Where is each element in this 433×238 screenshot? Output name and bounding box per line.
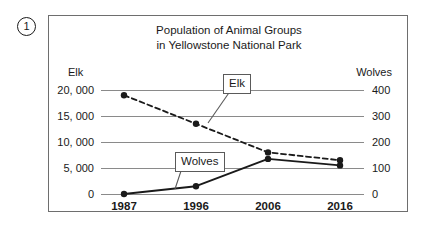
x-tick-1987: 1987 [111, 200, 137, 212]
series-line-elk [121, 92, 343, 163]
callout-label-elk: Elk [223, 74, 251, 94]
chart-title-line-1: Population of Animal Groups [156, 24, 302, 36]
chart-page: 1 Population of Animal Groups in Yellows… [0, 0, 433, 238]
x-tick-1996: 1996 [183, 200, 209, 212]
gridline-0 [101, 194, 364, 195]
callout-label-wolves: Wolves [175, 152, 225, 172]
plot-area: 20, 000 15, 000 10, 000 5, 000 0 400 300… [101, 90, 364, 194]
left-tick-15000: 15, 000 [57, 111, 94, 122]
right-axis-title: Wolves [356, 66, 392, 78]
right-tick-100: 100 [372, 163, 390, 174]
right-tick-0: 0 [372, 189, 378, 200]
figure-panel: Population of Animal Groups in Yellowsto… [48, 15, 408, 212]
left-tick-0: 0 [88, 189, 94, 200]
chart-title: Population of Animal Groups in Yellowsto… [49, 23, 409, 53]
item-number-badge: 1 [17, 17, 36, 36]
left-tick-20000: 20, 000 [57, 85, 94, 96]
right-tick-300: 300 [372, 111, 390, 122]
left-axis-title: Elk [68, 66, 83, 78]
right-tick-200: 200 [372, 137, 390, 148]
right-tick-400: 400 [372, 85, 390, 96]
x-tick-2006: 2006 [255, 200, 281, 212]
x-tick-2016: 2016 [327, 200, 353, 212]
left-tick-10000: 10, 000 [57, 137, 94, 148]
left-tick-5000: 5, 000 [63, 163, 94, 174]
series-line-wolves [121, 156, 343, 198]
series-plot [101, 90, 364, 194]
callout-leader-lines [175, 87, 233, 189]
chart-title-line-2: in Yellowstone National Park [49, 38, 409, 53]
